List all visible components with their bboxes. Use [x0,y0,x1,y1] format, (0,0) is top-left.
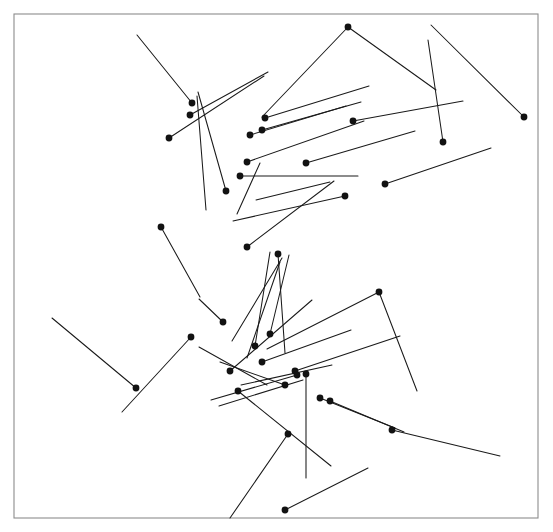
needle-origin-dot [262,115,269,122]
needle-origin-dot [282,382,289,389]
needle-segment [199,347,267,385]
needle-origin-dot [285,431,292,438]
needle-origin-dot [303,160,310,167]
needle-origin-dot [342,193,349,200]
needle-segment [392,430,500,456]
needle-origin-dot [303,371,310,378]
needle-origin-dot [235,388,242,395]
needle-origin-dot [158,224,165,231]
vector-field-plot [0,0,553,532]
needle-segment [233,196,345,221]
needle-layer [52,25,524,518]
needle-segment [137,35,192,103]
needle-segment [190,72,268,115]
needle-segment [198,92,226,191]
needle-segment [385,148,491,184]
needle-segment [230,434,288,518]
needle-segment [247,181,334,247]
needle-segment [265,86,369,118]
needle-origin-dot [327,398,334,405]
needle-origin-dot [227,368,234,375]
plot-frame [14,14,538,518]
needle-origin-dot [275,251,282,258]
needle-segment [219,380,303,406]
needle-origin-dot [188,334,195,341]
needle-segment [295,336,400,371]
needle-segment [247,121,364,162]
needle-segment [169,76,264,138]
needle-origin-dot [282,507,289,514]
needle-segment [199,299,223,322]
needle-origin-dot [189,100,196,107]
needle-origin-dot [376,289,383,296]
needle-segment [238,391,331,466]
needle-origin-dot [237,173,244,180]
needle-origin-dot [389,427,396,434]
needle-origin-dot [259,127,266,134]
needle-segment [348,27,436,90]
needle-origin-dot [252,343,259,350]
needle-origin-dot [382,181,389,188]
needle-segment [285,468,368,510]
needle-origin-dot [440,139,447,146]
needle-origin-dot [187,112,194,119]
needle-origin-dot [350,118,357,125]
needle-segment [256,182,330,200]
needle-origin-dot [317,395,324,402]
needle-origin-dot [247,132,254,139]
needle-origin-dot [521,114,528,121]
needle-segment [237,163,260,214]
needle-segment [353,101,463,121]
needle-segment [278,254,285,353]
needle-segment [122,337,191,412]
dot-layer [133,24,528,514]
needle-segment [431,25,524,117]
needle-segment [52,318,136,388]
needle-segment [247,262,280,358]
needle-origin-dot [267,331,274,338]
needle-origin-dot [259,359,266,366]
needle-segment [262,27,348,117]
figure-root [0,0,553,532]
needle-origin-dot [294,372,301,379]
needle-segment [197,96,206,210]
needle-origin-dot [223,188,230,195]
needle-origin-dot [345,24,352,31]
needle-origin-dot [244,244,251,251]
needle-segment [428,40,443,142]
needle-origin-dot [244,159,251,166]
needle-origin-dot [166,135,173,142]
needle-origin-dot [133,385,140,392]
needle-origin-dot [220,319,227,326]
needle-segment [161,227,200,297]
